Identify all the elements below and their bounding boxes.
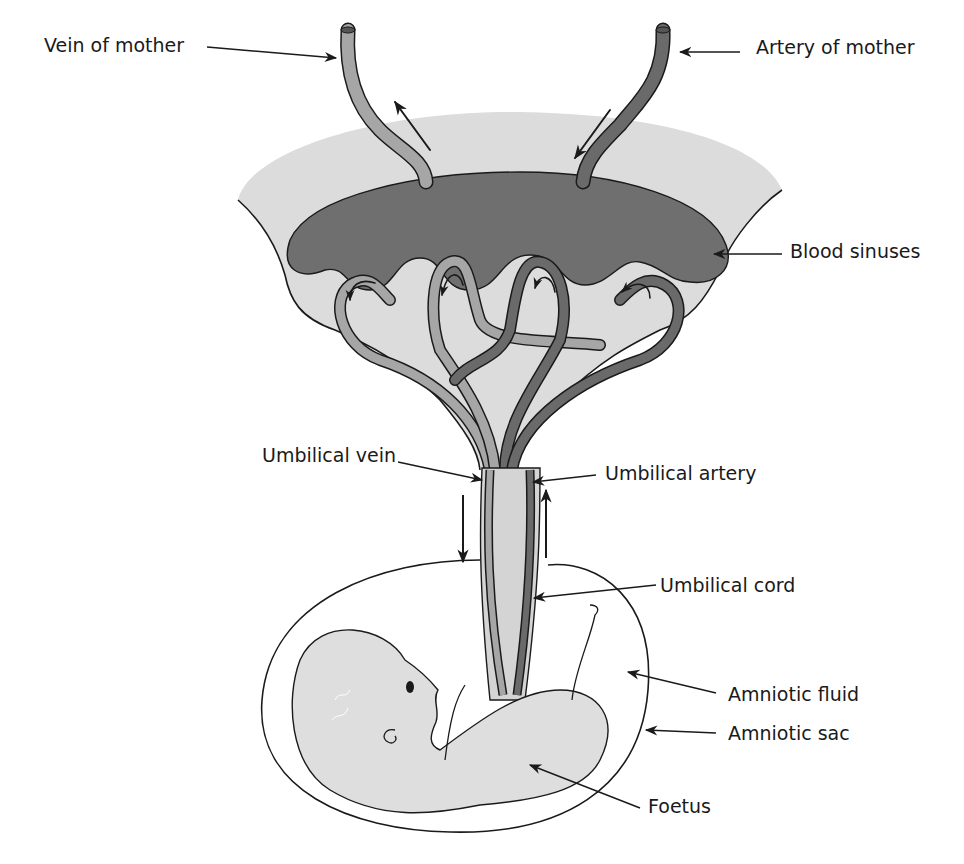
umbilical-cord — [463, 468, 546, 700]
label-foetus: Foetus — [648, 795, 711, 817]
label-vein-of-mother: Vein of mother — [44, 34, 184, 56]
label-amniotic-sac: Amniotic sac — [728, 722, 850, 744]
foetus — [292, 605, 608, 813]
label-artery-of-mother: Artery of mother — [756, 36, 915, 58]
label-umbilical-artery: Umbilical artery — [605, 462, 756, 484]
placenta — [238, 112, 782, 470]
label-blood-sinuses: Blood sinuses — [790, 240, 920, 262]
label-amniotic-fluid: Amniotic fluid — [728, 683, 859, 705]
label-umbilical-cord: Umbilical cord — [660, 574, 795, 596]
label-umbilical-vein: Umbilical vein — [262, 444, 396, 466]
